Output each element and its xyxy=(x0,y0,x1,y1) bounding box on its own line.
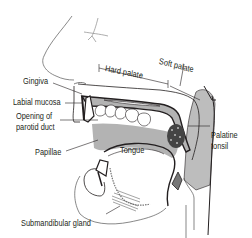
label-palatine-tonsil-line2: tonsil xyxy=(211,141,228,151)
oral-cavity-diagram: Gingiva Labial mucosa Opening of parotid… xyxy=(0,0,252,238)
jaw-outline xyxy=(75,176,166,224)
label-papillae: Papillae xyxy=(35,147,61,157)
label-tongue: Tongue xyxy=(120,145,144,155)
nasal-sketch xyxy=(84,18,108,42)
upper-lip xyxy=(73,86,80,122)
label-opening-of-parotid-duct-line2: parotid duct xyxy=(16,122,55,132)
label-submandibular-gland: Submandibular gland xyxy=(21,218,91,228)
nose-outline xyxy=(43,16,74,80)
label-opening-of-parotid-duct-line1: Opening of xyxy=(16,111,52,121)
palatine-tonsil-shape xyxy=(167,124,185,148)
label-gingiva: Gingiva xyxy=(23,76,48,86)
label-labial-mucosa: Labial mucosa xyxy=(13,97,61,107)
label-palatine-tonsil-line1: Palatine xyxy=(211,130,238,140)
